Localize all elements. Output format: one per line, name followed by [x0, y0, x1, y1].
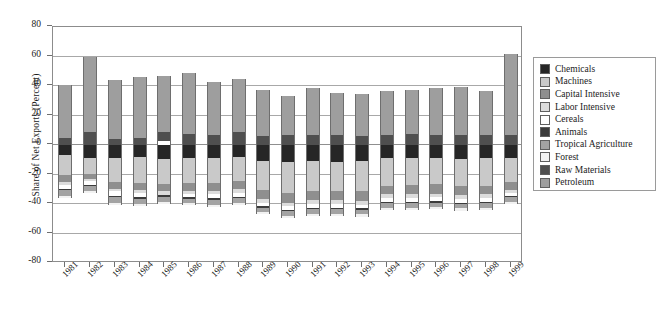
bar-segment-petroleum	[306, 88, 320, 134]
legend-swatch-icon	[540, 152, 550, 162]
legend-item-label: Raw Materials	[555, 165, 611, 176]
y-tick-label: 20	[5, 108, 41, 118]
y-tick-mark	[47, 202, 52, 203]
bar-segment-raw-materials	[182, 134, 196, 145]
bar-segment-raw-materials	[58, 138, 72, 145]
bar-segment-machines	[83, 158, 97, 173]
bar-segment-petroleum	[355, 94, 369, 136]
chart-figure: Share of Net Exports (Percent) 198119821…	[0, 0, 659, 309]
bar-segment-machines	[306, 161, 320, 191]
legend-item-cereals[interactable]: Cereals	[540, 113, 650, 126]
legend-swatch-icon	[540, 127, 550, 137]
bar-1991[interactable]	[306, 27, 320, 263]
bar-segment-forest	[306, 214, 320, 216]
bar-segment-forest	[182, 203, 196, 205]
bar-1984[interactable]	[133, 27, 147, 263]
bar-segment-capital-intensive	[58, 175, 72, 182]
bar-segment-machines	[429, 158, 443, 184]
bar-1986[interactable]	[182, 27, 196, 263]
bar-segment-capital-intensive	[330, 191, 344, 200]
bar-1998[interactable]	[479, 27, 493, 263]
bar-segment-petroleum	[454, 87, 468, 134]
y-tick-mark	[47, 232, 52, 233]
bar-segment-chemicals	[479, 145, 493, 158]
legend-item-chemicals[interactable]: Chemicals	[540, 63, 650, 76]
bar-segment-capital-intensive	[256, 190, 270, 199]
legend-item-machines[interactable]: Machines	[540, 76, 650, 89]
bar-segment-raw-materials	[157, 132, 171, 141]
bar-1987[interactable]	[207, 27, 221, 263]
bar-segment-forest	[330, 214, 344, 216]
bar-segment-petroleum	[429, 88, 443, 134]
legend-item-capital-intensive[interactable]: Capital Intensive	[540, 88, 650, 101]
bar-1992[interactable]	[330, 27, 344, 263]
bar-1994[interactable]	[380, 27, 394, 263]
legend-item-petroleum[interactable]: Petroleum	[540, 176, 650, 189]
bar-segment-chemicals	[504, 145, 518, 158]
bar-segment-capital-intensive	[281, 193, 295, 203]
bar-1981[interactable]	[58, 27, 72, 263]
bar-1985[interactable]	[157, 27, 171, 263]
bar-segment-forest	[479, 208, 493, 210]
bar-segment-forest	[108, 203, 122, 205]
legend-item-labor-intensive[interactable]: Labor Intensive	[540, 101, 650, 114]
bar-segment-machines	[281, 162, 295, 193]
bar-1989[interactable]	[256, 27, 270, 263]
bar-1988[interactable]	[232, 27, 246, 263]
y-tick-mark	[47, 261, 52, 262]
bar-segment-raw-materials	[429, 135, 443, 145]
legend-swatch-icon	[540, 102, 550, 112]
bar-segment-chemicals	[83, 145, 97, 158]
legend-swatch-icon	[540, 77, 550, 87]
bar-segment-chemicals	[454, 145, 468, 159]
bar-segment-capital-intensive	[207, 183, 221, 191]
bar-1995[interactable]	[405, 27, 419, 263]
bar-1997[interactable]	[454, 27, 468, 263]
bar-1999[interactable]	[504, 27, 518, 263]
legend-swatch-icon	[540, 165, 550, 175]
bar-1996[interactable]	[429, 27, 443, 263]
bar-segment-forest	[157, 202, 171, 204]
bar-segment-raw-materials	[281, 135, 295, 145]
bar-segment-capital-intensive	[133, 183, 147, 190]
bar-segment-capital-intensive	[380, 186, 394, 195]
bar-segment-forest	[504, 202, 518, 204]
bar-1982[interactable]	[83, 27, 97, 263]
y-tick-label: 0	[5, 137, 41, 147]
bar-1983[interactable]	[108, 27, 122, 263]
y-tick-label: -20	[5, 167, 41, 177]
legend-item-label: Machines	[555, 76, 592, 87]
legend-item-animals[interactable]: Animals	[540, 126, 650, 139]
legend-item-label: Capital Intensive	[555, 89, 620, 100]
bar-segment-raw-materials	[207, 135, 221, 145]
bar-1990[interactable]	[281, 27, 295, 263]
bar-segment-raw-materials	[83, 132, 97, 145]
bar-segment-raw-materials	[504, 135, 518, 145]
legend-item-raw-materials[interactable]: Raw Materials	[540, 164, 650, 177]
legend-item-label: Cereals	[555, 114, 584, 125]
legend-item-forest[interactable]: Forest	[540, 151, 650, 164]
bar-segment-machines	[355, 161, 369, 191]
bar-segment-forest	[355, 214, 369, 216]
y-tick-mark	[47, 143, 52, 144]
legend-item-label: Tropical Agriculture	[555, 139, 632, 150]
bar-1993[interactable]	[355, 27, 369, 263]
bar-segment-chemicals	[330, 145, 344, 162]
legend-swatch-icon	[540, 140, 550, 150]
legend-item-label: Petroleum	[555, 177, 594, 188]
bar-segment-machines	[504, 158, 518, 182]
bar-segment-machines	[207, 158, 221, 182]
legend-item-tropical-agriculture[interactable]: Tropical Agriculture	[540, 139, 650, 152]
bar-segment-chemicals	[157, 145, 171, 159]
bar-segment-chemicals	[182, 145, 196, 158]
legend-item-label: Chemicals	[555, 64, 595, 75]
bar-segment-machines	[405, 158, 419, 185]
bar-segment-raw-materials	[306, 135, 320, 145]
bar-segment-capital-intensive	[504, 182, 518, 190]
bar-segment-machines	[330, 162, 344, 192]
bar-segment-raw-materials	[355, 136, 369, 145]
bar-segment-raw-materials	[454, 135, 468, 145]
bar-segment-raw-materials	[133, 138, 147, 145]
bar-segment-chemicals	[133, 145, 147, 157]
bar-segment-machines	[479, 158, 493, 185]
